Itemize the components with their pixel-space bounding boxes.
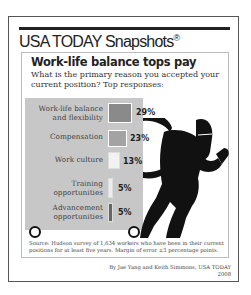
source-note: Source: Hudson survey of 1,634 workers w… — [29, 240, 229, 253]
bar-label: Advancementopportunities — [53, 204, 103, 221]
chart-subtitle: What is the primary reason you accepted … — [31, 70, 231, 90]
bar-value: 5% — [118, 208, 132, 217]
top-rule — [19, 27, 230, 30]
bar-label: Compensation — [50, 133, 103, 142]
worker-silhouette-icon — [140, 118, 232, 240]
bar — [108, 103, 132, 123]
bar-label: Work-life balanceand flexibility — [39, 105, 103, 122]
bar-label: Work culture — [55, 156, 103, 165]
byline: By Jae Yang and Keith Simmons, USA TODAY… — [109, 264, 231, 278]
bar-value: 5% — [118, 184, 132, 193]
wheel-icon — [128, 226, 140, 238]
bar-label: Trainingopportunities — [53, 180, 103, 197]
chart-title: Work-life balance tops pay — [31, 55, 196, 69]
bar — [108, 130, 127, 147]
bar-value: 29% — [136, 108, 155, 117]
bar — [108, 203, 113, 222]
brand-title: USA TODAY Snapshots® — [19, 33, 179, 51]
wheel-icon — [29, 226, 41, 238]
bar — [108, 152, 120, 169]
bar — [108, 178, 113, 198]
